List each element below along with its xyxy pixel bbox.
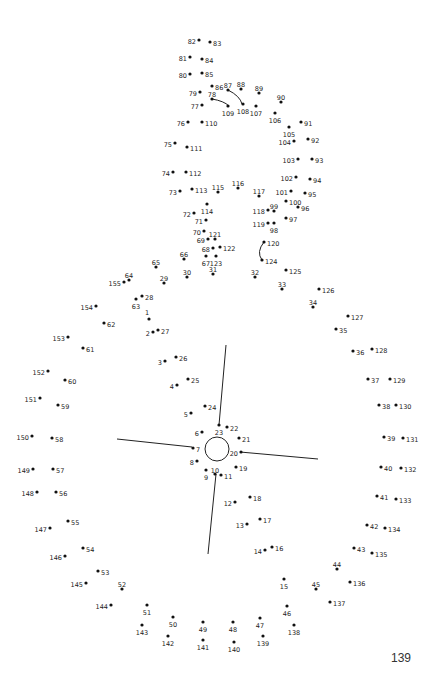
dot-56: 56	[54, 490, 67, 498]
dot-number: 87	[224, 82, 232, 90]
dot-107: 107	[250, 104, 262, 118]
dot-number: 75	[164, 141, 172, 149]
dot-128: 128	[370, 347, 387, 355]
dot-marker	[134, 297, 137, 300]
dot-number: 26	[179, 355, 187, 363]
dot-number: 118	[253, 208, 265, 216]
dot-95: 95	[303, 191, 316, 199]
dot-34: 34	[309, 299, 317, 309]
dot-40: 40	[379, 465, 392, 473]
dot-number: 44	[333, 561, 341, 569]
dot-marker	[102, 321, 105, 324]
dot-9: 9	[204, 468, 208, 482]
dot-marker	[175, 383, 178, 386]
dot-133: 133	[394, 497, 411, 505]
dot-number: 25	[191, 377, 199, 385]
dot-number: 15	[280, 583, 288, 591]
dot-69: 69	[197, 237, 210, 245]
numbered-dots: 1234567891011121314151617181920212223242…	[17, 38, 419, 654]
dot-marker	[51, 467, 54, 470]
dot-138: 138	[288, 623, 300, 637]
dot-32: 32	[251, 269, 259, 279]
dot-18: 18	[248, 495, 261, 503]
dot-marker	[299, 120, 302, 123]
dot-marker	[328, 600, 331, 603]
dot-marker	[50, 436, 53, 439]
guide-line-west	[117, 439, 192, 447]
dot-112: 112	[184, 170, 201, 178]
dot-142: 142	[162, 634, 174, 648]
dot-number: 111	[190, 145, 202, 153]
dot-marker	[287, 125, 290, 128]
dot-number: 82	[188, 38, 196, 46]
dot-number: 123	[210, 260, 222, 268]
dot-number: 19	[239, 465, 247, 473]
dot-marker	[81, 346, 84, 349]
dot-number: 88	[237, 81, 245, 89]
dot-marker	[248, 495, 251, 498]
dot-marker	[306, 137, 309, 140]
dot-number: 74	[162, 170, 170, 178]
dot-103: 103	[283, 157, 300, 165]
dot-number: 134	[388, 526, 400, 534]
dot-121: 121	[209, 231, 221, 241]
dot-15: 15	[280, 577, 288, 591]
dot-number: 59	[61, 403, 69, 411]
dot-number: 94	[313, 177, 321, 185]
dot-118: 118	[253, 208, 270, 216]
dot-22: 22	[225, 425, 238, 433]
dot-marker	[191, 446, 194, 449]
dot-number: 86	[215, 84, 223, 92]
dot-marker	[394, 497, 397, 500]
dot-marker	[308, 177, 311, 180]
dot-number: 3	[158, 359, 162, 367]
dot-marker	[237, 436, 240, 439]
dot-115: 115	[212, 184, 224, 194]
dot-number: 104	[279, 139, 291, 147]
dot-marker	[203, 404, 206, 407]
dot-53: 53	[96, 569, 109, 577]
dot-132: 132	[399, 466, 416, 474]
dot-number: 136	[353, 580, 365, 588]
dot-102: 102	[281, 175, 298, 183]
dot-60: 60	[63, 378, 76, 386]
dot-number: 2	[146, 330, 150, 338]
dot-number: 6	[195, 430, 199, 438]
dot-marker	[156, 328, 159, 331]
dot-marker	[261, 634, 264, 637]
dot-153: 153	[53, 335, 70, 343]
dot-8: 8	[190, 459, 199, 467]
dot-marker	[54, 490, 57, 493]
dot-marker	[171, 170, 174, 173]
dot-145: 145	[71, 581, 88, 589]
dot-number: 102	[281, 175, 293, 183]
dot-63: 63	[132, 297, 140, 311]
dot-number: 153	[53, 335, 65, 343]
dot-12: 12	[224, 500, 237, 508]
dot-number: 96	[301, 205, 309, 213]
dot-number: 5	[184, 411, 188, 419]
dot-marker	[284, 199, 287, 202]
dot-marker	[258, 616, 261, 619]
dot-110: 110	[200, 120, 217, 128]
dot-6: 6	[195, 430, 204, 438]
dot-number: 36	[356, 349, 364, 357]
dot-marker	[140, 294, 143, 297]
dot-marker	[346, 314, 349, 317]
dot-120: 120	[262, 240, 279, 248]
dot-number: 42	[370, 523, 378, 531]
dot-151: 151	[25, 396, 42, 404]
dot-marker	[200, 103, 203, 106]
dot-number: 58	[55, 436, 63, 444]
dot-marker	[174, 355, 177, 358]
dot-marker	[163, 359, 166, 362]
dot-28: 28	[140, 294, 153, 302]
dot-number: 18	[253, 495, 261, 503]
dot-number: 124	[265, 258, 277, 266]
dot-100: 100	[284, 199, 301, 207]
dot-number: 4	[170, 383, 174, 391]
curve-78-109	[212, 99, 229, 106]
dot-number: 76	[177, 120, 185, 128]
dot-number: 126	[322, 287, 334, 295]
dot-41: 41	[375, 494, 388, 502]
